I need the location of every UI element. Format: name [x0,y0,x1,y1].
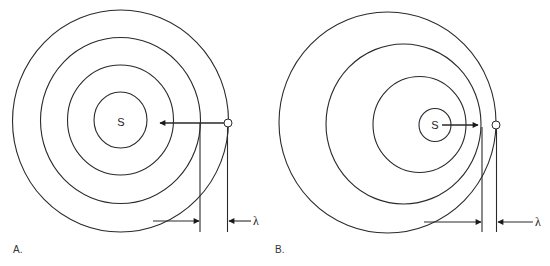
observer-icon [224,119,232,127]
panel-b: S λ B. [275,12,541,255]
observer-icon [492,121,500,129]
wavefront-2 [326,44,481,204]
panel-label: A. [13,244,22,255]
doppler-diagram: S λ A. S λ B. [0,0,550,266]
wavelength-label: λ [535,215,541,229]
wavelength-label: λ [253,214,259,228]
source-label: S [431,119,438,131]
source-label: S [117,116,124,128]
panel-label: B. [275,244,284,255]
panel-a: S λ A. [13,10,260,255]
